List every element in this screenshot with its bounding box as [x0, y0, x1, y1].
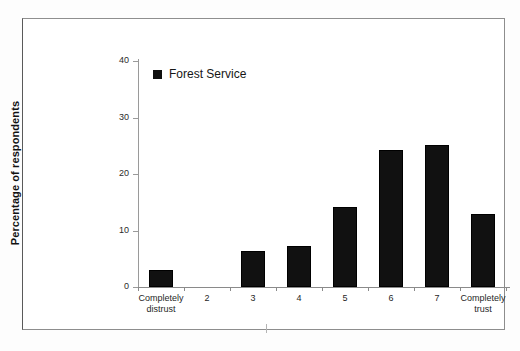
x-axis-tick: [460, 287, 461, 291]
x-axis-tick: [276, 287, 277, 291]
scan-artifact-mark: [266, 324, 267, 333]
x-axis-tick: [506, 287, 507, 291]
bar-6: [379, 150, 403, 287]
chart-frame: Percentage of respondents 010203040 Fore…: [22, 18, 505, 330]
figure-caption-sliver: [4, 341, 304, 351]
y-axis-tick-label: 20: [103, 168, 129, 178]
x-axis-tick: [322, 287, 323, 291]
bar-3: [241, 251, 265, 287]
x-axis-tick: [368, 287, 369, 291]
bar-5: [333, 207, 357, 287]
y-axis-tick-label: 0: [103, 281, 129, 291]
x-axis-tick: [414, 287, 415, 291]
x-axis-line: [138, 287, 510, 288]
y-axis-title: Percentage of respondents: [9, 73, 21, 273]
plot-area: [138, 61, 506, 287]
bar-7: [425, 145, 449, 287]
bar-completely-distrust: [149, 270, 173, 287]
bar-completely-trust: [471, 214, 495, 287]
x-axis-tick: [184, 287, 185, 291]
y-axis-tick-label: 10: [103, 225, 129, 235]
bar-4: [287, 246, 311, 287]
y-axis-tick-label: 40: [103, 55, 129, 65]
x-axis-tick: [138, 287, 139, 291]
x-axis-tick: [230, 287, 231, 291]
scanned-page-background: Percentage of respondents 010203040 Fore…: [0, 0, 520, 351]
x-axis-label-completely-trust: Completely trust: [449, 293, 517, 315]
y-axis-tick-label: 30: [103, 112, 129, 122]
